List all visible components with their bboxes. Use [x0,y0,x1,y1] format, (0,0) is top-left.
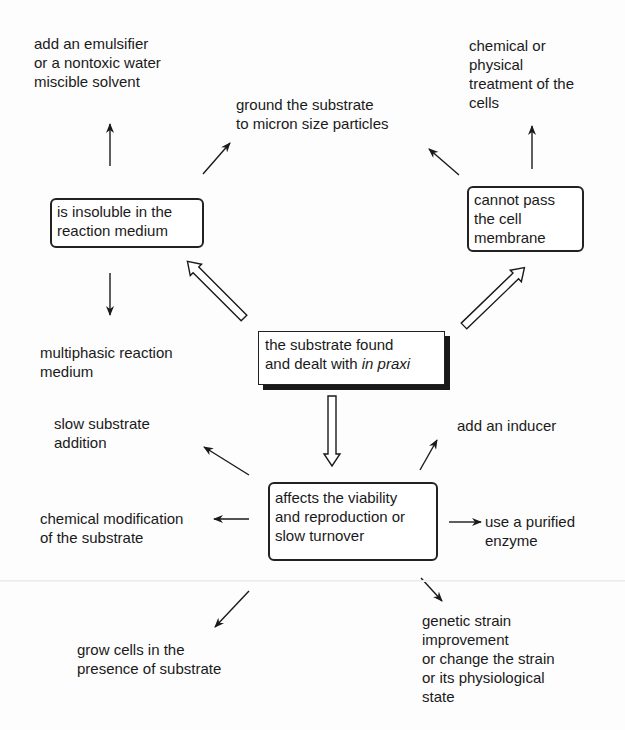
outcome-grow-cells: grow cells in the presence of substrate [77,640,221,678]
outcome-chemical-modification: chemical modification of the substrate [40,509,183,547]
hollow-arrow-to-insoluble [182,256,250,324]
outcome-genetic-strain: genetic strain improvement or change the… [422,611,555,706]
arrow-to-ground [203,143,230,174]
center-line-1: the substrate found [265,335,438,354]
problem-box-membrane: cannot pass the cell membrane [467,186,584,252]
problem-box-viability: affects the viability and reproduction o… [268,482,438,561]
problem-box-insoluble: is insoluble in the reaction medium [50,198,204,248]
arrow-to-slow-addition [204,447,249,475]
outcome-inducer: add an inducer [457,416,556,435]
center-line-2-italic: in praxi [362,355,410,372]
center-line-2-text: and dealt with [265,355,362,372]
page-fold-line [0,580,625,582]
outcome-purified-enzyme: use a purified enzyme [485,512,575,550]
arrow-to-inducer [420,440,437,470]
arrow-to-grow-cells [215,591,249,627]
outcome-ground-substrate: ground the substrate to micron size part… [236,95,389,133]
arrow-to-ground-from-membrane [429,149,459,175]
diagram-canvas: add an emulsifier or a nontoxic water mi… [0,0,625,730]
outcome-slow-addition: slow substrate addition [54,414,150,452]
outcome-emulsifier: add an emulsifier or a nontoxic water mi… [34,34,161,91]
center-box-substrate: the substrate found and dealt with in pr… [258,331,445,385]
center-line-2: and dealt with in praxi [265,354,438,373]
outcome-multiphasic: multiphasic reaction medium [40,343,173,381]
hollow-arrow-to-viability [324,396,340,466]
hollow-arrow-to-membrane [458,262,530,332]
outcome-chemical-treatment: chemical or physical treatment of the ce… [469,36,574,112]
